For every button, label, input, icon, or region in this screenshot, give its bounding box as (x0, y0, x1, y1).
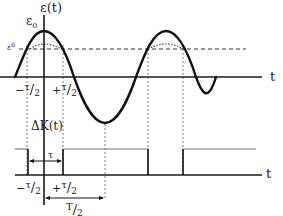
diagram-canvas (0, 0, 283, 216)
tau-width-label: τ (48, 151, 53, 160)
peak-amplitude-label: ε0 (26, 15, 37, 27)
sign: − (16, 182, 25, 195)
bottom-tick-neg-tau-half: −τ/2 (16, 181, 41, 194)
denominator: 2 (71, 88, 77, 98)
half-period-arrowhead-right (99, 196, 104, 200)
denominator: 2 (71, 186, 77, 196)
top-tick-pos-tau-half: +τ/2 (52, 83, 77, 96)
sign: + (52, 84, 61, 97)
numerator: τ (25, 179, 31, 190)
denominator: 2 (35, 186, 41, 196)
sign: + (52, 182, 61, 195)
half-period-label: T/2 (66, 203, 83, 216)
epsilon-axis-label: ε(t) (40, 1, 62, 14)
bottom-tick-pos-tau-half: +τ/2 (52, 181, 77, 194)
top-tick-neg-tau-half: −τ/2 (15, 83, 40, 96)
top-t-axis-label: t (270, 70, 275, 83)
threshold-label: ε0 (7, 44, 15, 52)
denominator: 2 (77, 208, 83, 216)
half-period-arrowhead-left (45, 196, 50, 200)
dotted-flat-peak-1 (30, 44, 61, 49)
tau-arrowhead-left (29, 159, 34, 163)
tau-arrowhead-right (57, 159, 62, 163)
numerator: T (66, 201, 73, 212)
peak-subscript: 0 (32, 21, 37, 30)
numerator: τ (61, 179, 67, 190)
sign: − (15, 84, 24, 97)
numerator: τ (61, 81, 67, 92)
denominator: 2 (34, 88, 40, 98)
numerator: τ (24, 81, 30, 92)
delta-k-axis-label: ΔK(t) (31, 120, 63, 132)
dotted-flat-peak-2 (148, 44, 183, 49)
threshold-superscript: 0 (11, 41, 15, 48)
bottom-t-axis-label: t (266, 167, 271, 180)
